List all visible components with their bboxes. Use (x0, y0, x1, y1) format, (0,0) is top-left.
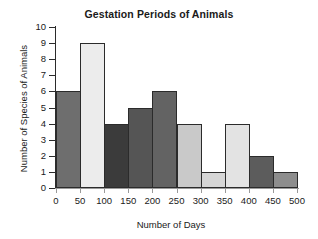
bar (201, 172, 226, 188)
bar (225, 124, 250, 188)
y-axis-tick-label: 3 (22, 135, 46, 145)
y-axis-tick (49, 124, 55, 125)
x-axis-tick (152, 189, 153, 193)
bar (152, 91, 177, 188)
y-axis-tick (49, 188, 55, 189)
y-axis-tick (49, 108, 55, 109)
y-axis-tick-label: 1 (22, 167, 46, 177)
x-axis-tick (225, 189, 226, 193)
y-axis-tick (49, 59, 55, 60)
y-axis-tick-label: 10 (22, 22, 46, 32)
y-axis-tick (49, 43, 55, 44)
y-axis-tick-label: 5 (22, 103, 46, 113)
y-axis-tick (49, 91, 55, 92)
x-axis-title: Number of Days (40, 219, 302, 230)
y-axis-tick (49, 75, 55, 76)
y-axis-tick (49, 172, 55, 173)
bar (80, 43, 105, 188)
y-axis-tick-label: 7 (22, 70, 46, 80)
bar (56, 91, 81, 188)
x-axis-tick (56, 189, 57, 193)
x-axis-tick (249, 189, 250, 193)
x-axis-tick (297, 189, 298, 193)
chart-title: Gestation Periods of Animals (0, 8, 318, 20)
bar (104, 124, 129, 188)
x-axis-tick-label: 500 (282, 195, 312, 206)
y-axis-tick-label: 9 (22, 38, 46, 48)
gestation-periods-bar-chart: Gestation Periods of Animals Number of S… (0, 0, 318, 239)
bar (249, 156, 274, 188)
y-axis-tick-label: 6 (22, 86, 46, 96)
y-axis-tick (49, 27, 55, 28)
y-axis-tick-label: 4 (22, 119, 46, 129)
bar (177, 124, 202, 188)
x-axis-tick (80, 189, 81, 193)
x-axis-tick (104, 189, 105, 193)
y-axis-tick-label: 2 (22, 151, 46, 161)
y-axis-tick (49, 140, 55, 141)
y-axis-tick-label: 0 (22, 183, 46, 193)
x-axis-tick (177, 189, 178, 193)
x-axis-tick (201, 189, 202, 193)
y-axis-tick-label: 8 (22, 54, 46, 64)
bar (273, 172, 298, 188)
x-axis-tick (128, 189, 129, 193)
plot-area (56, 27, 297, 188)
bar (128, 108, 153, 189)
y-axis-tick (49, 156, 55, 157)
x-axis-tick (273, 189, 274, 193)
